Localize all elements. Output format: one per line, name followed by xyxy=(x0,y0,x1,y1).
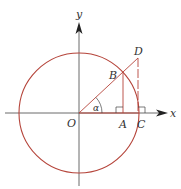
segment-OD xyxy=(79,58,138,113)
diagram-canvas: y x O A C B D α xyxy=(0,0,181,189)
y-axis-label: y xyxy=(75,8,83,21)
point-label-D: D xyxy=(133,45,143,58)
x-axis-label: x xyxy=(170,107,177,120)
point-label-C: C xyxy=(137,118,146,131)
right-angle-A-icon xyxy=(116,107,123,113)
unit-circle-diagram: y x O A C B D α xyxy=(0,0,181,189)
angle-label-alpha: α xyxy=(93,103,99,113)
point-label-B: B xyxy=(108,69,117,82)
point-label-O: O xyxy=(67,117,76,130)
point-label-A: A xyxy=(118,118,127,131)
